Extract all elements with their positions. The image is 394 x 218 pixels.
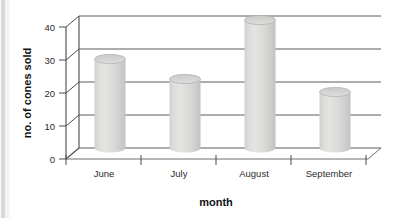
y-axis-ticks: 40 30 20 10 0: [44, 16, 79, 165]
bar-june-body: [95, 59, 126, 153]
x-tick-label-september: September: [306, 168, 352, 179]
x-axis-ticks: [66, 155, 366, 165]
y-tick-label-40: 40: [44, 22, 55, 33]
bar-august-body: [245, 20, 276, 153]
axis-depth-riser: [66, 148, 79, 159]
y-connector-20: [66, 82, 79, 93]
y-connector-10: [66, 115, 79, 126]
bar-july-top: [170, 74, 201, 83]
y-tick-label-20: 20: [44, 88, 55, 99]
floor-right-depth-edge: [368, 148, 381, 159]
bar-july[interactable]: [170, 74, 201, 152]
x-axis-labels: June July August September: [94, 168, 353, 179]
y-connector-40: [66, 16, 79, 27]
x-tick-label-july: July: [171, 168, 188, 179]
bar-june[interactable]: [95, 54, 126, 152]
bar-september-body: [320, 92, 351, 153]
bars-group: [95, 15, 351, 152]
y-tick-label-10: 10: [44, 121, 55, 132]
bar-july-body: [170, 79, 201, 153]
y-tick-label-0: 0: [50, 154, 55, 165]
x-tick-label-june: June: [94, 168, 115, 179]
bar-june-top: [95, 54, 126, 63]
y-tick-label-30: 30: [44, 55, 55, 66]
x-axis-title: month: [199, 196, 233, 208]
x-tick-label-august: August: [239, 168, 269, 179]
chart-figure: 40 30 20 10 0: [0, 0, 394, 218]
bar-chart-svg: 40 30 20 10 0: [0, 0, 394, 218]
bar-august-top: [245, 15, 276, 24]
bar-september-top: [320, 87, 351, 96]
bar-august[interactable]: [245, 15, 276, 152]
y-axis-title: no. of cones sold: [21, 48, 33, 138]
bar-september[interactable]: [320, 87, 351, 152]
y-connector-30: [66, 49, 79, 60]
